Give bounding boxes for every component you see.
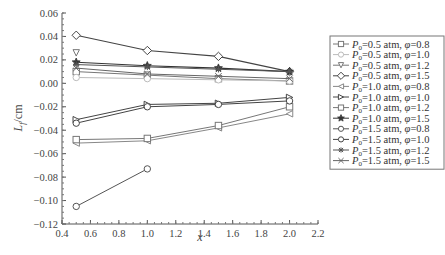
circle-marker-icon: [338, 52, 343, 57]
series-line: [76, 35, 289, 71]
series-line: [76, 169, 147, 207]
data-series: [73, 98, 293, 127]
circle-marker-icon: [73, 203, 79, 209]
y-tick-label: −0.02: [34, 101, 58, 112]
y-tick-label: −0.12: [34, 219, 58, 230]
x-tick-label: 1.8: [255, 228, 268, 239]
legend: P0=0.5 atm, φ=0.8P0=0.5 atm, φ=1.0P0=0.5…: [330, 36, 444, 169]
y-tick-label: 0.06: [40, 8, 58, 19]
y-tick-label: 0.02: [40, 54, 58, 65]
square-marker-icon: [338, 105, 343, 110]
asterisk-marker-icon: [338, 147, 343, 152]
chart: 0.060.040.020.00−0.02−0.04−0.06−0.08−0.1…: [0, 0, 445, 255]
square-marker-icon: [73, 136, 79, 142]
y-axis-unit: /cm: [11, 104, 25, 123]
circle-marker-icon: [73, 120, 79, 126]
circle-marker-icon: [215, 77, 221, 83]
x-tick-label: 0.8: [112, 228, 125, 239]
circle-marker-icon: [286, 98, 292, 104]
series-line: [76, 97, 289, 119]
diamond-marker-icon: [143, 46, 151, 54]
y-tick-label: −0.06: [34, 148, 58, 159]
data-series: [73, 50, 79, 56]
circle-marker-icon: [73, 74, 79, 80]
circle-marker-icon: [215, 101, 221, 107]
triangle-left-marker-icon: [286, 111, 292, 117]
diamond-marker-icon: [214, 52, 222, 60]
x-tick-label: 2.0: [283, 228, 296, 239]
circle-marker-icon: [144, 166, 150, 172]
y-tick-label: 0.04: [40, 31, 59, 42]
triangle-down-marker-icon: [73, 50, 79, 56]
circle-marker-icon: [338, 126, 343, 131]
y-tick-label: −0.10: [34, 195, 58, 206]
x-tick-label: 2.2: [311, 228, 324, 239]
y-tick-label: −0.04: [34, 125, 59, 136]
data-series: [73, 166, 151, 210]
x-tick-label: 1.6: [226, 228, 239, 239]
x-tick-label: 0.4: [55, 228, 69, 239]
x-tick-label: 0.6: [84, 228, 97, 239]
y-axis-title: Lf/cm: [11, 104, 27, 133]
data-series: [73, 94, 293, 123]
square-marker-icon: [338, 41, 343, 46]
data-series: [73, 74, 293, 84]
asterisk-marker-icon: [73, 61, 79, 67]
square-marker-icon: [215, 122, 221, 128]
y-tick-label: 0.00: [40, 78, 58, 89]
y-tick-label: −0.08: [34, 172, 58, 183]
data-series: [73, 104, 293, 143]
asterisk-marker-icon: [215, 66, 221, 72]
x-tick-label: 1.2: [169, 228, 182, 239]
x-axis-title: x: [196, 230, 203, 244]
circle-marker-icon: [144, 104, 150, 110]
data-series: [72, 31, 294, 76]
x-tick-label: 1.0: [141, 228, 154, 239]
diamond-marker-icon: [72, 31, 80, 39]
asterisk-marker-icon: [144, 64, 150, 70]
asterisk-marker-icon: [286, 68, 292, 74]
square-marker-icon: [144, 135, 150, 141]
svg-text:Lf/cm: Lf/cm: [11, 104, 27, 133]
circle-marker-icon: [338, 137, 343, 142]
data-series: [72, 58, 293, 75]
plot-area: [72, 31, 294, 210]
